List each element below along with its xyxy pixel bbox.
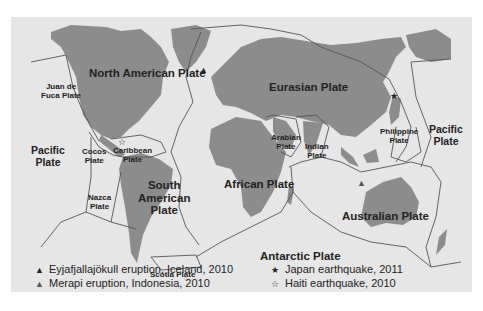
legend-label: Merapi eruption, Indonesia, 2010 bbox=[49, 277, 210, 289]
legend-right: ★Japan earthquake, 2011 ☆Haiti earthquak… bbox=[271, 263, 403, 291]
star-outline-icon: ☆ bbox=[271, 278, 285, 291]
label-arabian-plate: Arabian Plate bbox=[271, 134, 301, 152]
label-line: Plate bbox=[380, 137, 418, 146]
legend-item: ▲Merapi eruption, Indonesia, 2010 bbox=[35, 277, 233, 291]
legend-item: ▲Eyjafjallajökull eruption, Iceland, 201… bbox=[35, 263, 233, 277]
legend-item: ★Japan earthquake, 2011 bbox=[271, 263, 403, 277]
volcano-filled-icon: ▲ bbox=[35, 264, 49, 277]
map-panel: North American Plate Juan de Fuca Plate … bbox=[11, 17, 472, 292]
boundary-pacific-south bbox=[41, 212, 86, 247]
label-line: Pacific bbox=[429, 124, 463, 136]
label-nazca-plate: Nazca Plate bbox=[88, 194, 111, 212]
label-antarctic-plate: Antarctic Plate bbox=[260, 250, 341, 263]
label-pacific-plate-west: Pacific Plate bbox=[31, 145, 65, 168]
label-line: Plate bbox=[429, 136, 463, 148]
label-line: Plate bbox=[31, 157, 65, 169]
label-pacific-plate-east: Pacific Plate bbox=[429, 124, 463, 147]
label-caribbean-plate: Caribbean Plate bbox=[113, 147, 152, 165]
star-filled-icon: ★ bbox=[271, 264, 285, 277]
label-line: Plate bbox=[88, 203, 111, 212]
label-african-plate: African Plate bbox=[224, 178, 294, 191]
label-philippine-plate: Philippine Plate bbox=[380, 128, 418, 146]
legend-label: Japan earthquake, 2011 bbox=[285, 263, 403, 275]
legend-label: Haiti earthquake, 2010 bbox=[285, 277, 396, 289]
label-eurasian-plate: Eurasian Plate bbox=[269, 81, 348, 94]
indonesia-landmass bbox=[341, 147, 379, 167]
volcano-outline-icon: ▲ bbox=[35, 278, 49, 291]
legend-label: Eyjafjallajökull eruption, Iceland, 2010 bbox=[49, 263, 233, 275]
label-australian-plate: Australian Plate bbox=[342, 210, 429, 223]
label-line: Plate bbox=[82, 157, 106, 166]
label-north-american-plate: North American Plate bbox=[89, 67, 206, 80]
label-line: Plate bbox=[113, 156, 152, 165]
label-indian-plate: Indian Plate bbox=[305, 143, 329, 161]
world-map bbox=[11, 17, 472, 292]
boundary-pacific-east bbox=[411, 59, 451, 167]
star-outline-icon: ☆ bbox=[118, 138, 126, 147]
legend-left: ▲Eyjafjallajökull eruption, Iceland, 201… bbox=[35, 263, 233, 291]
star-filled-icon: ★ bbox=[390, 92, 398, 101]
new-zealand-landmass bbox=[436, 229, 447, 255]
volcano-filled-icon: ▲ bbox=[199, 66, 208, 75]
label-line: Fuca Plate bbox=[41, 92, 81, 101]
label-line: American bbox=[138, 192, 190, 205]
label-south-american-plate: South American Plate bbox=[138, 179, 190, 217]
volcano-outline-icon: ▲ bbox=[357, 179, 366, 188]
label-line: Plate bbox=[271, 143, 301, 152]
label-line: Plate bbox=[305, 152, 329, 161]
label-juan-de-fuca-plate: Juan de Fuca Plate bbox=[41, 83, 81, 101]
label-line: Pacific bbox=[31, 145, 65, 157]
label-line: South bbox=[138, 179, 190, 192]
label-cocos-plate: Cocos Plate bbox=[82, 148, 106, 166]
legend-item: ☆Haiti earthquake, 2010 bbox=[271, 277, 403, 291]
label-line: Plate bbox=[138, 204, 190, 217]
eastern-siberia-landmass bbox=[406, 29, 451, 62]
